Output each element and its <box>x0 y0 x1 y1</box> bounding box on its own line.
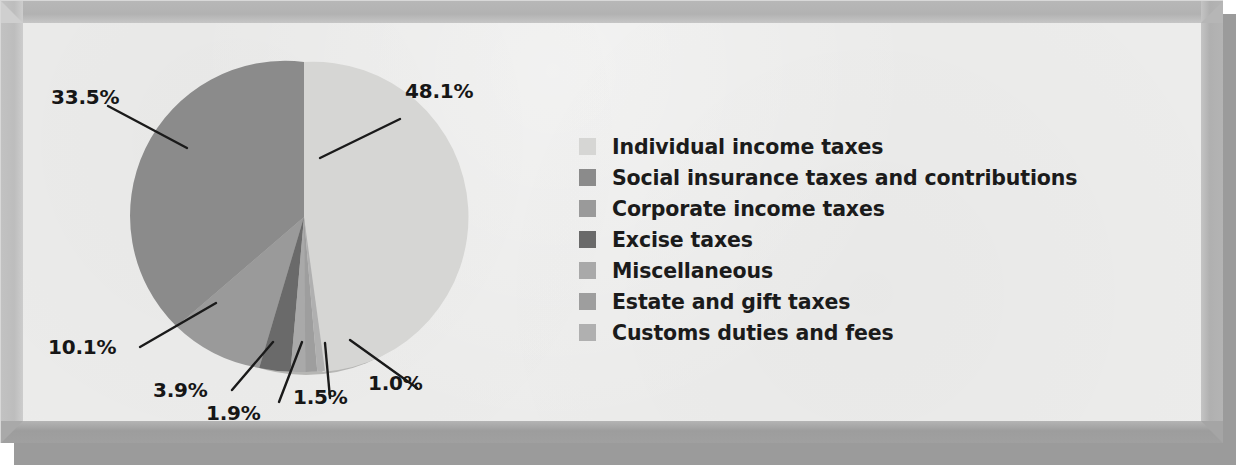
figure-drop-shadow-bottom <box>14 442 1236 465</box>
chart-legend: Individual income taxes Social insurance… <box>579 131 1077 348</box>
legend-swatch-icon <box>579 231 596 248</box>
legend-item-miscellaneous[interactable]: Miscellaneous <box>579 255 1077 286</box>
figure-frame: 48.1% 33.5% 10.1% 3.9% 1.9% 1.5% 1.0% In… <box>0 0 1223 443</box>
legend-item-label: Estate and gift taxes <box>612 290 850 314</box>
pie-label-miscellaneous: 1.9% <box>206 401 261 421</box>
figure-drop-shadow-right <box>1222 14 1236 456</box>
legend-swatch-icon <box>579 200 596 217</box>
frame-corner-top-left <box>1 1 23 23</box>
frame-bevel-left <box>1 1 23 443</box>
legend-item-excise-taxes[interactable]: Excise taxes <box>579 224 1077 255</box>
legend-item-label: Social insurance taxes and contributions <box>612 166 1077 190</box>
legend-item-label: Miscellaneous <box>612 259 773 283</box>
frame-bevel-bottom <box>1 421 1223 443</box>
legend-item-individual-income-taxes[interactable]: Individual income taxes <box>579 131 1077 162</box>
legend-item-corporate-income-taxes[interactable]: Corporate income taxes <box>579 193 1077 224</box>
frame-corner-top-right <box>1201 1 1223 23</box>
pie-label-customs-duties-and-fees: 1.0% <box>368 371 423 395</box>
pie-label-corporate-income-taxes: 10.1% <box>48 335 116 359</box>
pie-slices <box>130 61 468 372</box>
legend-item-label: Individual income taxes <box>612 135 883 159</box>
legend-item-label: Excise taxes <box>612 228 753 252</box>
frame-bevel-right <box>1201 1 1223 443</box>
legend-item-label: Corporate income taxes <box>612 197 885 221</box>
pie-chart-canvas: 48.1% 33.5% 10.1% 3.9% 1.9% 1.5% 1.0% In… <box>23 23 1201 421</box>
legend-item-label: Customs duties and fees <box>612 321 893 345</box>
pie-label-individual-income-taxes: 48.1% <box>405 79 473 103</box>
frame-corner-bottom-left <box>1 421 23 443</box>
legend-swatch-icon <box>579 138 596 155</box>
frame-corner-bottom-right <box>1201 421 1223 443</box>
pie-label-social-insurance-taxes: 33.5% <box>51 85 119 109</box>
frame-bevel-top <box>1 1 1223 23</box>
legend-item-social-insurance-taxes[interactable]: Social insurance taxes and contributions <box>579 162 1077 193</box>
legend-swatch-icon <box>579 293 596 310</box>
legend-swatch-icon <box>579 169 596 186</box>
pie-label-excise-taxes: 3.9% <box>153 378 208 402</box>
legend-swatch-icon <box>579 324 596 341</box>
pie-slice-individual-income-taxes-body[interactable] <box>304 62 468 372</box>
legend-item-customs-duties-and-fees[interactable]: Customs duties and fees <box>579 317 1077 348</box>
pie-label-estate-and-gift-taxes: 1.5% <box>293 385 348 409</box>
legend-item-estate-and-gift-taxes[interactable]: Estate and gift taxes <box>579 286 1077 317</box>
legend-swatch-icon <box>579 262 596 279</box>
